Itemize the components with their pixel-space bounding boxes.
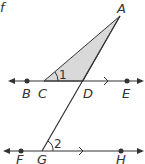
angle-2-arc (48, 141, 53, 151)
text-fragment: f (0, 0, 7, 15)
shaded-triangle-ACD (44, 16, 120, 81)
point-E (125, 79, 130, 84)
arrowhead-left-icon (3, 148, 10, 154)
angle-2-label: 2 (54, 137, 62, 151)
label-F: F (16, 152, 24, 164)
angle-1-label: 1 (59, 68, 67, 82)
label-B: B (22, 86, 31, 101)
label-A: A (116, 1, 126, 16)
label-E: E (122, 86, 131, 101)
label-G: G (37, 152, 47, 164)
label-D: D (83, 86, 93, 101)
arrowhead-right-icon (137, 148, 144, 154)
point-B (25, 79, 30, 84)
arrowhead-right-icon (137, 78, 144, 84)
arrowhead-left-icon (8, 78, 15, 84)
transversal-AG (42, 16, 120, 151)
geometry-diagram: f A B C D E F G H 1 2 (0, 0, 145, 164)
label-C: C (38, 86, 48, 101)
label-H: H (116, 152, 126, 164)
